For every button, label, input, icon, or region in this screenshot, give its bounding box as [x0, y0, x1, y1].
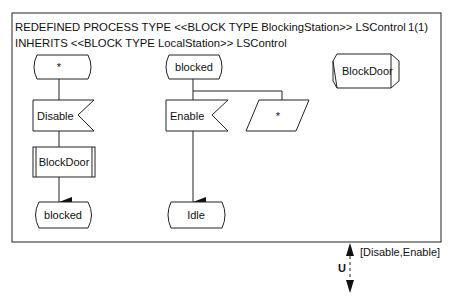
procedure-reference-label: BlockDoor — [342, 65, 393, 77]
gate-arrow-up-icon — [346, 243, 354, 256]
page-number: 1(1) — [408, 21, 428, 33]
state-symbol-star[interactable] — [34, 55, 91, 79]
input-disable-label: Disable — [37, 110, 74, 122]
gate-arrow-down-icon — [346, 280, 354, 293]
procedure-call-label: BlockDoor — [39, 156, 90, 168]
state-blocked-label: blocked — [44, 209, 82, 221]
header-line1: REDEFINED PROCESS TYPE <<BLOCK TYPE Bloc… — [15, 21, 406, 33]
state-idle-label: Idle — [187, 209, 205, 221]
sdl-diagram: REDEFINED PROCESS TYPE <<BLOCK TYPE Bloc… — [0, 0, 452, 301]
state-blocked-start-label: blocked — [175, 61, 213, 73]
state-star-label: * — [57, 61, 62, 73]
input-enable-label: Enable — [170, 110, 204, 122]
flow-branch-line — [193, 91, 282, 100]
save-star-label: * — [276, 110, 281, 122]
gate-signal-list: [Disable,Enable] — [360, 246, 440, 258]
gate-name: U — [338, 262, 346, 274]
header-line2: INHERITS <<BLOCK TYPE LocalStation>> LSC… — [15, 37, 287, 49]
